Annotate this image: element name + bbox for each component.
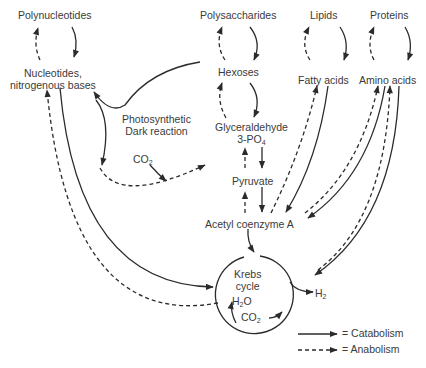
label-photosynthetic-line1: Photosynthetic [122,113,191,125]
label-glyceraldehyde: Glyceraldehyde 3-PO4 [215,121,288,149]
label-krebs-line2: cycle [234,280,261,292]
catabolism-arrow-polysaccharides-to-hexoses [250,27,257,60]
label-fatty-acids: Fatty acids [298,74,349,86]
label-photosynthetic-line2: Dark reaction [122,125,191,137]
label-polysaccharides: Polysaccharides [200,9,276,21]
catabolism-arrow-amino-acids-to-krebs [315,86,399,275]
anabolism-arrow-nucleotides-to-polynucleotides [36,28,40,60]
anabolism-arrow-glyceraldehyde-to-hexoses [220,83,226,118]
label-co2-krebs: CO2 [241,311,261,327]
arrow-nucleotides-down [96,100,106,165]
label-photosynthetic: Photosynthetic Dark reaction [122,113,191,137]
label-proteins: Proteins [370,9,409,21]
label-nucleotides: Nucleotides, nitrogenous bases [10,67,96,91]
arrows-layer [0,0,426,368]
label-krebs-line1: Krebs [234,268,261,280]
anabolism-arrow-acetyl-to-fatty-acids [271,86,317,213]
label-h2: H2 [315,287,327,303]
catabolism-arrow-fatty-acids-to-acetyl [286,86,328,212]
catabolism-arrow-hexoses-to-glyceraldehyde [250,83,257,117]
label-co2-input: CO2 [133,153,153,169]
label-amino-acids: Amino acids [359,74,416,86]
arrow-co2-in-krebs [269,312,282,318]
label-nucleotides-line2: nitrogenous bases [10,79,96,91]
metabolism-diagram: Polynucleotides Nucleotides, nitrogenous… [0,0,426,368]
label-glyceraldehyde-line2: 3-PO4 [215,133,288,149]
label-acetyl-coenzyme-a: Acetyl coenzyme A [205,218,294,230]
label-glyceraldehyde-line1: Glyceraldehyde [215,121,288,133]
label-hexoses: Hexoses [218,66,259,78]
catabolism-arrow-lipids-to-fatty-acids [340,27,346,60]
label-krebs-cycle: Krebs cycle [234,268,261,292]
label-nucleotides-line1: Nucleotides, [10,67,96,79]
anabolism-arrow-acetyl-to-amino-acids [305,86,378,213]
label-pyruvate: Pyruvate [232,175,273,187]
label-h2o: H2O [232,295,252,311]
catabolism-arrow-acetyl-to-krebs [248,229,254,252]
legend-catabolism-label: = Catabolism [342,327,404,339]
legend-anabolism-label: = Anabolism [342,343,400,355]
arrow-photosynthetic-to-nucleotides [94,62,200,108]
label-lipids: Lipids [310,9,337,21]
label-polynucleotides: Polynucleotides [18,9,92,21]
anabolism-arrow-fatty-acids-to-lipids [305,27,310,60]
catabolism-arrow-proteins-to-amino-acids [405,27,410,60]
anabolism-arrow-amino-acids-to-proteins [370,27,374,60]
catabolism-arrow-polynucleotides-to-nucleotides [72,27,76,57]
anabolism-arrow-hexoses-to-polysaccharides [219,27,225,60]
